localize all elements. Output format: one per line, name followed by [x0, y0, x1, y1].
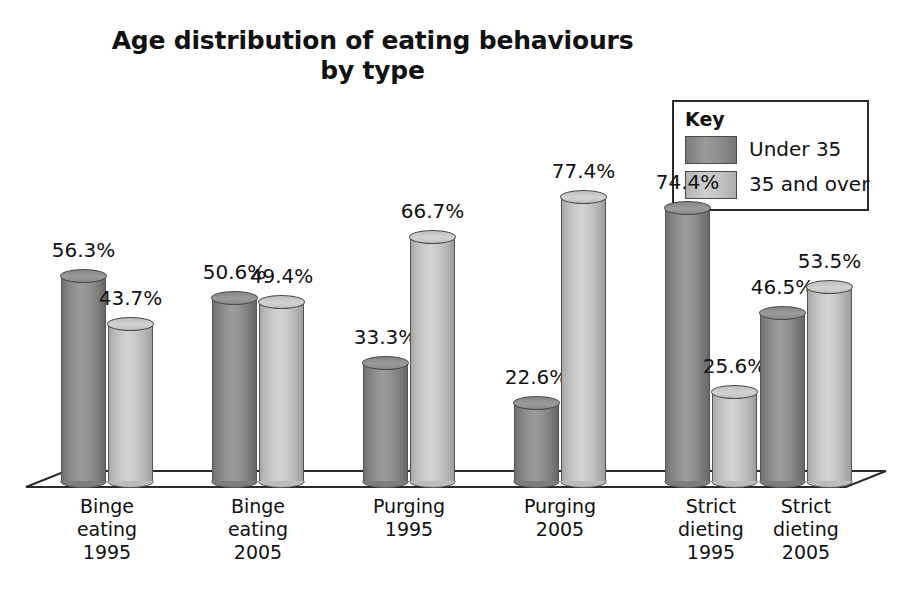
- category-label-line: Strict: [736, 495, 876, 518]
- category-label-line: 1995: [339, 518, 479, 541]
- bar-strict-dieting-2005-35-and-over: [807, 280, 852, 481]
- cylinder-top-ellipse: [759, 306, 805, 320]
- cylinder-top-ellipse: [711, 385, 757, 399]
- bar-strict-dieting-2005-under-35: [760, 306, 805, 481]
- bar-value-label: 74.4%: [648, 170, 728, 194]
- category-label-line: Purging: [490, 495, 630, 518]
- bar-value-label: 49.4%: [242, 264, 322, 288]
- bar-purging-1995-35-and-over: [410, 230, 455, 481]
- cylinder-body: [259, 302, 304, 481]
- bar-strict-dieting-1995-35-and-over: [712, 385, 757, 481]
- cylinder-top-ellipse: [560, 190, 606, 204]
- cylinder-body: [712, 392, 757, 481]
- cylinder-body: [212, 298, 257, 481]
- bar-binge-eating-1995-35-and-over: [108, 317, 153, 481]
- category-label-line: 2005: [736, 541, 876, 564]
- cylinder-body: [108, 324, 153, 481]
- bar-value-label: 43.7%: [91, 286, 171, 310]
- cylinder-body: [410, 237, 455, 481]
- bar-value-label: 53.5%: [790, 249, 870, 273]
- category-label-strict-dieting-2005: Strictdieting2005: [736, 495, 876, 565]
- category-label-line: Binge: [37, 495, 177, 518]
- cylinder-body: [665, 208, 710, 481]
- bar-purging-2005-35-and-over: [561, 190, 606, 481]
- cylinder-body: [760, 313, 805, 481]
- category-label-binge-eating-1995: Bingeeating1995: [37, 495, 177, 565]
- cylinder-top-ellipse: [362, 356, 408, 370]
- category-label-line: 2005: [188, 541, 328, 564]
- bar-strict-dieting-1995-under-35: [665, 201, 710, 481]
- category-label-binge-eating-2005: Bingeeating2005: [188, 495, 328, 565]
- cylinder-top-ellipse: [107, 317, 153, 331]
- category-label-line: 2005: [490, 518, 630, 541]
- cylinder-body: [514, 403, 559, 481]
- cylinder-top-ellipse: [806, 280, 852, 294]
- category-label-line: Purging: [339, 495, 479, 518]
- cylinder-body: [561, 197, 606, 481]
- category-label-line: Binge: [188, 495, 328, 518]
- cylinder-body: [363, 363, 408, 481]
- bar-value-label: 66.7%: [393, 199, 473, 223]
- chart-canvas: Age distribution of eating behaviours by…: [0, 0, 922, 592]
- bar-purging-2005-under-35: [514, 396, 559, 481]
- category-label-line: 1995: [37, 541, 177, 564]
- bar-value-label: 77.4%: [544, 159, 624, 183]
- category-label-line: dieting: [736, 518, 876, 541]
- cylinder-top-ellipse: [211, 291, 257, 305]
- category-label-line: eating: [188, 518, 328, 541]
- category-label-line: eating: [37, 518, 177, 541]
- bars-layer: 56.3%43.7%Bingeeating199550.6%49.4%Binge…: [0, 0, 922, 592]
- category-label-purging-1995: Purging1995: [339, 495, 479, 541]
- bar-binge-eating-2005-35-and-over: [259, 295, 304, 481]
- cylinder-top-ellipse: [513, 396, 559, 410]
- category-label-purging-2005: Purging2005: [490, 495, 630, 541]
- bar-binge-eating-2005-under-35: [212, 291, 257, 481]
- bar-value-label: 56.3%: [44, 238, 124, 262]
- cylinder-body: [807, 287, 852, 481]
- bar-purging-1995-under-35: [363, 356, 408, 481]
